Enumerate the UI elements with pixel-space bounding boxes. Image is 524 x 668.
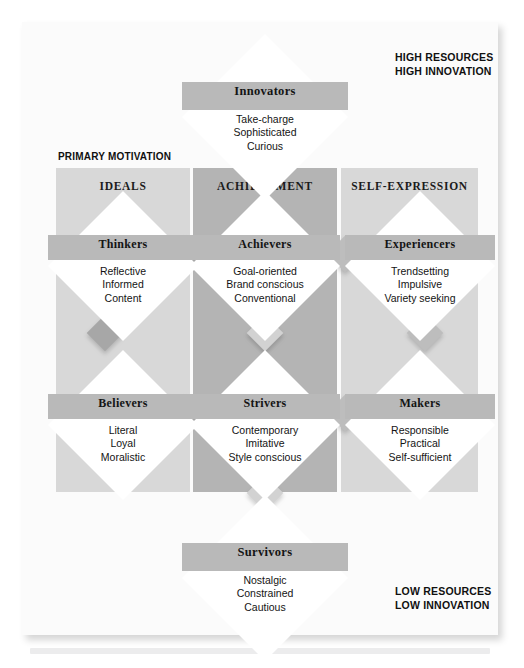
segment-traits-innovators: Take-charge Sophisticated Curious xyxy=(182,113,348,154)
trait: Curious xyxy=(182,140,348,154)
segment-makers[interactable]: Makers Responsible Practical Self-suffic… xyxy=(345,350,495,500)
trait: Sophisticated xyxy=(182,126,348,140)
low-resources-caption: LOW RESOURCES LOW INNOVATION xyxy=(395,584,492,612)
low-resources-line-1: LOW RESOURCES xyxy=(395,584,492,598)
primary-motivation-label: PRIMARY MOTIVATION xyxy=(58,150,171,164)
segment-name-survivors: Survivors xyxy=(182,545,348,560)
trait: Literal xyxy=(48,424,198,438)
trait: Goal-oriented xyxy=(190,265,340,279)
segment-name-believers: Believers xyxy=(48,396,198,411)
trait: Responsible xyxy=(345,424,495,438)
high-resources-line-1: HIGH RESOURCES xyxy=(395,50,493,64)
trait: Reflective xyxy=(48,265,198,279)
trait: Variety seeking xyxy=(345,292,495,306)
trait: Self-sufficient xyxy=(345,451,495,465)
vals-framework-figure: IDEALS ACHIEVEMENT SELF-EXPRESSION PRIMA… xyxy=(0,0,524,668)
trait: Conventional xyxy=(190,292,340,306)
segment-traits-strivers: Contemporary Imitative Style conscious xyxy=(190,424,340,465)
trait: Contemporary xyxy=(190,424,340,438)
high-resources-caption: HIGH RESOURCES HIGH INNOVATION xyxy=(395,50,493,78)
trait: Loyal xyxy=(48,437,198,451)
segment-survivors[interactable]: Survivors Nostalgic Constrained Cautious xyxy=(182,495,348,661)
low-innovation-line-2: LOW INNOVATION xyxy=(395,598,492,612)
trait: Practical xyxy=(345,437,495,451)
trait: Informed xyxy=(48,278,198,292)
segment-traits-thinkers: Reflective Informed Content xyxy=(48,265,198,306)
segment-thinkers[interactable]: Thinkers Reflective Informed Content xyxy=(48,191,198,341)
segment-traits-survivors: Nostalgic Constrained Cautious xyxy=(182,574,348,615)
segment-name-thinkers: Thinkers xyxy=(48,237,198,252)
segment-believers[interactable]: Believers Literal Loyal Moralistic xyxy=(48,350,198,500)
trait: Trendsetting xyxy=(345,265,495,279)
trait: Cautious xyxy=(182,601,348,615)
segment-traits-makers: Responsible Practical Self-sufficient xyxy=(345,424,495,465)
trait: Take-charge xyxy=(182,113,348,127)
trait: Brand conscious xyxy=(190,278,340,292)
segment-innovators[interactable]: Innovators Take-charge Sophisticated Cur… xyxy=(182,34,348,200)
trait: Content xyxy=(48,292,198,306)
segment-traits-believers: Literal Loyal Moralistic xyxy=(48,424,198,465)
segment-name-strivers: Strivers xyxy=(190,396,340,411)
trait: Imitative xyxy=(190,437,340,451)
trait: Style conscious xyxy=(190,451,340,465)
high-innovation-line-2: HIGH INNOVATION xyxy=(395,64,493,78)
segment-traits-achievers: Goal-oriented Brand conscious Convention… xyxy=(190,265,340,306)
segment-achievers[interactable]: Achievers Goal-oriented Brand conscious … xyxy=(190,191,340,341)
trait: Moralistic xyxy=(48,451,198,465)
segment-experiencers[interactable]: Experiencers Trendsetting Impulsive Vari… xyxy=(345,191,495,341)
segment-traits-experiencers: Trendsetting Impulsive Variety seeking xyxy=(345,265,495,306)
segment-name-makers: Makers xyxy=(345,396,495,411)
trait: Impulsive xyxy=(345,278,495,292)
segment-name-experiencers: Experiencers xyxy=(345,237,495,252)
segment-name-innovators: Innovators xyxy=(182,84,348,99)
segment-name-achievers: Achievers xyxy=(190,237,340,252)
trait: Constrained xyxy=(182,587,348,601)
segment-strivers[interactable]: Strivers Contemporary Imitative Style co… xyxy=(190,350,340,500)
trait: Nostalgic xyxy=(182,574,348,588)
